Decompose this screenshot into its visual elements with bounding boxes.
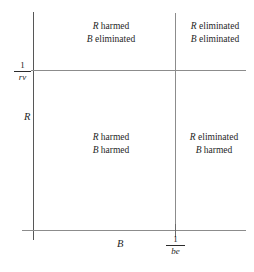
quadrant-bottom-left-line2: B harmed xyxy=(52,144,170,157)
r-symbol: R xyxy=(93,132,99,142)
r-symbol: R xyxy=(191,21,197,31)
quadrant-top-right-line1: R eliminated xyxy=(178,20,252,33)
x-axis-label: B xyxy=(117,238,123,249)
y-threshold-denominator: rv xyxy=(14,72,31,82)
x-threshold-denominator: be xyxy=(166,246,185,256)
vertical-threshold-line xyxy=(175,13,176,237)
phase-diagram-figure: R harmed B eliminated R eliminated B eli… xyxy=(0,0,254,272)
r-state: eliminated xyxy=(198,132,238,142)
y-axis-line xyxy=(33,12,34,240)
y-axis-threshold-label: 1 rv xyxy=(14,60,31,82)
b-state: harmed xyxy=(204,145,233,155)
quadrant-top-left-line1: R harmed xyxy=(52,20,170,33)
quadrant-bottom-left: R harmed B harmed xyxy=(52,131,170,157)
y-axis-label: R xyxy=(24,111,30,122)
quadrant-bottom-right-line1: R eliminated xyxy=(176,131,252,144)
x-axis-line xyxy=(22,230,246,231)
horizontal-threshold-line xyxy=(31,70,246,71)
b-symbol: B xyxy=(93,145,99,155)
r-symbol: R xyxy=(93,21,99,31)
quadrant-top-right: R eliminated B eliminated xyxy=(178,20,252,46)
quadrant-bottom-right: R eliminated B harmed xyxy=(176,131,252,157)
b-symbol: B xyxy=(196,145,202,155)
quadrant-bottom-right-line2: B harmed xyxy=(176,144,252,157)
quadrant-bottom-left-line1: R harmed xyxy=(52,131,170,144)
b-state: eliminated xyxy=(199,34,239,44)
b-state: eliminated xyxy=(95,34,135,44)
x-threshold-numerator: 1 xyxy=(166,234,185,244)
b-symbol: B xyxy=(87,34,93,44)
r-state: eliminated xyxy=(199,21,239,31)
r-state: harmed xyxy=(101,132,130,142)
b-symbol: B xyxy=(191,34,197,44)
quadrant-top-right-line2: B eliminated xyxy=(178,33,252,46)
y-threshold-numerator: 1 xyxy=(14,60,31,70)
b-state: harmed xyxy=(101,145,130,155)
r-symbol: R xyxy=(190,132,196,142)
quadrant-top-left-line2: B eliminated xyxy=(52,33,170,46)
x-axis-threshold-label: 1 be xyxy=(166,234,185,256)
quadrant-top-left: R harmed B eliminated xyxy=(52,20,170,46)
r-state: harmed xyxy=(101,21,130,31)
